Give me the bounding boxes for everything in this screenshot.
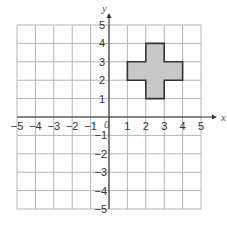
x-tick-label: 5 bbox=[198, 120, 204, 132]
coordinate-grid-diagram: xy0−5−4−3−2−11234512345−1−2−3−4−5 bbox=[0, 0, 227, 226]
x-tick-label: −3 bbox=[48, 120, 61, 132]
y-axis-arrow-icon bbox=[107, 13, 112, 18]
y-tick-label: −5 bbox=[94, 203, 107, 215]
y-tick-label: −1 bbox=[94, 129, 107, 141]
x-tick-label: −2 bbox=[66, 120, 79, 132]
y-tick-label: 1 bbox=[99, 93, 105, 105]
x-tick-label: 3 bbox=[161, 120, 167, 132]
x-tick-label: −4 bbox=[29, 120, 42, 132]
tick-labels: xy0−5−4−3−2−11234512345−1−2−3−4−5 bbox=[11, 2, 226, 215]
cross-polygon bbox=[127, 43, 182, 98]
y-tick-label: 4 bbox=[99, 37, 105, 49]
y-tick-label: −4 bbox=[94, 185, 107, 197]
origin-label: 0 bbox=[104, 118, 110, 130]
x-axis-label: x bbox=[220, 111, 226, 123]
x-tick-label: 1 bbox=[124, 120, 130, 132]
y-tick-label: 2 bbox=[99, 74, 105, 86]
y-tick-label: −2 bbox=[94, 148, 107, 160]
y-tick-label: −3 bbox=[94, 166, 107, 178]
y-axis-label: y bbox=[101, 2, 107, 14]
x-tick-label: 2 bbox=[143, 120, 149, 132]
axes bbox=[17, 13, 217, 209]
x-tick-label: 4 bbox=[180, 120, 186, 132]
x-tick-label: −5 bbox=[11, 120, 24, 132]
y-tick-label: 5 bbox=[99, 19, 105, 31]
x-axis-arrow-icon bbox=[212, 115, 217, 120]
cross-shape bbox=[127, 43, 182, 98]
grid-svg: xy0−5−4−3−2−11234512345−1−2−3−4−5 bbox=[0, 0, 227, 226]
y-tick-label: 3 bbox=[99, 56, 105, 68]
